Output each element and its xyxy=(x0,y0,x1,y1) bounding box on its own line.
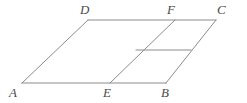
vertex-label-D: D xyxy=(80,3,89,16)
geometry-canvas xyxy=(0,0,247,103)
geometry-figure xyxy=(0,0,247,103)
vertex-label-E: E xyxy=(103,86,111,99)
vertex-label-F: F xyxy=(167,3,175,16)
vertex-label-C: C xyxy=(217,3,226,16)
segment-group xyxy=(22,20,216,83)
segment-AD xyxy=(22,20,88,83)
segment-BC xyxy=(166,20,216,83)
vertex-label-A: A xyxy=(9,86,17,99)
segment-EF xyxy=(110,20,175,83)
vertex-label-B: B xyxy=(161,86,169,99)
